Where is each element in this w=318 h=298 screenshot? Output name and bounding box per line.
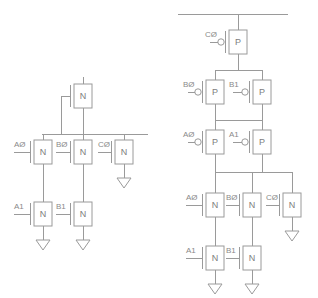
device-right-a0-n[interactable]: N AØ bbox=[186, 193, 224, 246]
device-left-b0[interactable]: N BØ bbox=[56, 140, 92, 202]
right-circuit: P CØ P BØ bbox=[178, 14, 301, 294]
signal-label-a1: A1 bbox=[186, 246, 196, 255]
signal-label-b1: B1 bbox=[226, 246, 236, 255]
signal-label-b1: B1 bbox=[229, 80, 239, 89]
left-circuit: N N AØ bbox=[14, 77, 148, 250]
inverting-bubble-icon bbox=[242, 139, 248, 145]
device-letter: P bbox=[212, 137, 218, 147]
ground-symbol bbox=[117, 178, 131, 188]
inverting-bubble-icon bbox=[195, 89, 201, 95]
device-letter: N bbox=[249, 200, 256, 210]
device-letter: N bbox=[249, 253, 256, 263]
device-letter: N bbox=[80, 91, 87, 101]
device-right-b1-n[interactable]: N B1 bbox=[226, 246, 261, 294]
circuit-diagram: N N AØ bbox=[0, 0, 318, 298]
signal-label-b0: BØ bbox=[183, 80, 195, 89]
signal-label-b1: B1 bbox=[56, 202, 66, 211]
device-right-c0-n[interactable]: N CØ bbox=[266, 193, 301, 241]
device-right-b1-p[interactable]: P B1 bbox=[229, 80, 271, 120]
inverting-bubble-icon bbox=[195, 139, 201, 145]
device-right-a0-p[interactable]: P AØ bbox=[183, 130, 224, 172]
device-letter: N bbox=[289, 200, 296, 210]
schematic-canvas: N N AØ bbox=[0, 0, 318, 298]
device-letter: P bbox=[259, 137, 265, 147]
device-right-c0-p[interactable]: P CØ bbox=[205, 30, 247, 70]
device-letter: N bbox=[40, 209, 47, 219]
device-right-a1-n[interactable]: N A1 bbox=[186, 246, 224, 294]
ground-symbol bbox=[245, 284, 259, 294]
device-letter: N bbox=[80, 209, 87, 219]
signal-label-a1: A1 bbox=[229, 130, 239, 139]
device-letter: N bbox=[40, 147, 47, 157]
device-letter: N bbox=[121, 147, 128, 157]
device-right-b0-n[interactable]: N BØ bbox=[226, 193, 261, 246]
inverting-bubble-icon bbox=[218, 39, 224, 45]
signal-label-a0: AØ bbox=[186, 193, 198, 202]
ground-symbol bbox=[208, 284, 222, 294]
signal-label-b0: BØ bbox=[56, 140, 68, 149]
signal-label-c0: CØ bbox=[205, 30, 217, 39]
inverting-bubble-icon bbox=[242, 89, 248, 95]
signal-label-c0: CØ bbox=[266, 193, 278, 202]
signal-label-b0: BØ bbox=[226, 193, 238, 202]
ground-symbol bbox=[36, 240, 50, 250]
device-letter: P bbox=[259, 87, 265, 97]
device-left-a1[interactable]: N A1 bbox=[14, 202, 52, 250]
device-right-a1-p[interactable]: P A1 bbox=[229, 130, 271, 172]
device-letter: N bbox=[80, 147, 87, 157]
device-letter: P bbox=[235, 37, 241, 47]
device-left-c0[interactable]: N CØ bbox=[98, 140, 133, 178]
signal-label-a0: AØ bbox=[183, 130, 195, 139]
device-letter: N bbox=[212, 200, 219, 210]
signal-label-a1: A1 bbox=[14, 202, 24, 211]
ground-symbol bbox=[76, 240, 90, 250]
signal-label-a0: AØ bbox=[14, 140, 26, 149]
device-letter: N bbox=[212, 253, 219, 263]
device-left-b1[interactable]: N B1 bbox=[56, 202, 92, 250]
device-letter: P bbox=[212, 87, 218, 97]
device-left-top-n[interactable]: N bbox=[61, 77, 92, 134]
ground-left-c0 bbox=[117, 178, 131, 188]
signal-label-c0: CØ bbox=[98, 140, 110, 149]
device-left-a0[interactable]: N AØ bbox=[14, 140, 52, 202]
ground-symbol bbox=[285, 231, 299, 241]
device-right-b0-p[interactable]: P BØ bbox=[183, 80, 224, 120]
